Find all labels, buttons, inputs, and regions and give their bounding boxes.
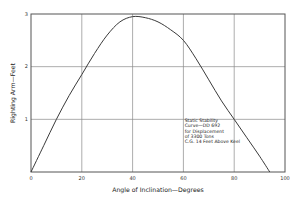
- y-tick-labels: 123: [25, 11, 28, 122]
- annotation-line: for Displacement: [185, 129, 225, 134]
- x-tick-labels: 020406080100: [29, 175, 289, 181]
- y-tick-label: 1: [25, 116, 28, 122]
- y-tick-label: 2: [25, 63, 28, 69]
- y-axis-label: Righting Arm—Feet: [9, 62, 17, 123]
- x-tick-label: 80: [231, 175, 237, 181]
- annotation-line: Static Stability: [185, 118, 219, 123]
- grid-lines: [31, 14, 285, 172]
- x-tick-label: 20: [79, 175, 85, 181]
- x-tick-label: 0: [29, 175, 32, 181]
- annotation-note: Static StabilityCurve—DD 692for Displace…: [185, 118, 240, 144]
- annotation-line: Curve—DD 692: [185, 123, 221, 128]
- annotation-line: of 3300 Tons: [185, 134, 215, 139]
- x-tick-label: 40: [129, 175, 135, 181]
- plot-frame: [31, 14, 285, 172]
- annotation-line: C.G. 14 Feet Above Keel: [185, 139, 240, 144]
- x-tick-label: 60: [180, 175, 186, 181]
- y-tick-label: 3: [25, 11, 28, 17]
- x-axis-label: Angle of Inclination—Degrees: [112, 186, 204, 194]
- stability-chart: 020406080100 123 Angle of Inclination—De…: [0, 0, 299, 202]
- x-tick-label: 100: [280, 175, 290, 181]
